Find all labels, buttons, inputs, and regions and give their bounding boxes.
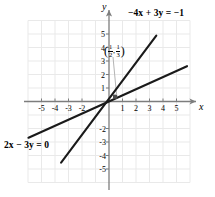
figure-background	[0, 0, 215, 197]
x-tick-label-neg4: -4	[49, 104, 62, 113]
x-tick-label-neg3: -3	[62, 104, 75, 113]
x-tick-label-2: 2	[132, 104, 141, 113]
x-tick-label-4: 4	[159, 104, 168, 113]
x-tick-label-neg5: -5	[35, 104, 48, 113]
x-tick-label-1: 1	[118, 104, 127, 113]
coordinate-plane-figure: −4x + 3y = −1 2x − 3y = 0 x y -5 -4 -3 -…	[0, 0, 215, 197]
y-tick-label-1: 1	[96, 84, 105, 93]
y-tick-label-2: 2	[96, 71, 105, 80]
y-tick-label-neg4: -4	[93, 152, 106, 161]
x-tick-label-3: 3	[145, 104, 154, 113]
x-tick-label-5: 5	[172, 104, 181, 113]
x-tick-label-neg2: -2	[76, 104, 89, 113]
x-axis-label: x	[199, 101, 203, 112]
equation-label-line-a: −4x + 3y = −1	[128, 8, 184, 18]
y-tick-label-5: 5	[96, 30, 105, 39]
graph-canvas	[0, 0, 215, 197]
y-tick-label-neg3: -3	[93, 138, 106, 147]
point-label-close-paren: )	[121, 45, 125, 57]
intersection-point-marker	[113, 95, 117, 99]
y-tick-label-neg2: -2	[93, 125, 106, 134]
y-axis-label: y	[102, 1, 106, 12]
y-tick-label-neg5: -5	[93, 165, 106, 174]
intersection-point-label: (12,13)	[104, 44, 125, 58]
equation-label-line-b: 2x − 3y = 0	[4, 140, 49, 150]
